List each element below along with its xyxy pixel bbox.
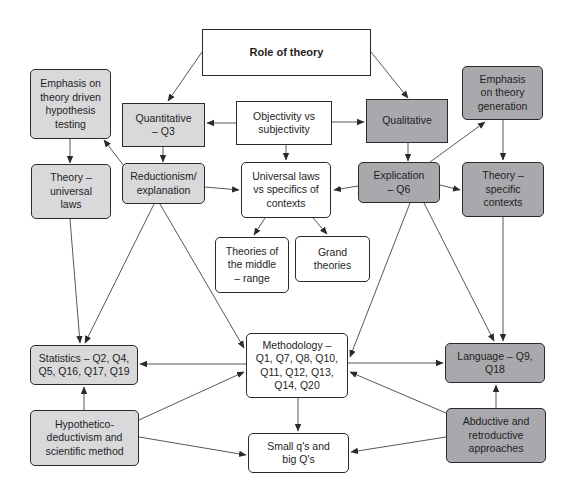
arrow-reductionism-to-statistics: [85, 204, 154, 343]
node-explication: Explication – Q6: [358, 162, 440, 203]
node-theory-specific-contexts: Theory – specific contexts: [462, 162, 544, 217]
arrow-explication-to-theory-specific: [440, 185, 460, 190]
node-theories-middle-range: Theories of the middle – range: [215, 237, 289, 293]
node-abductive-retroductive: Abductive and retroductive approaches: [446, 408, 546, 463]
node-methodology: Methodology – Q1, Q7, Q8, Q10, Q11, Q12,…: [246, 333, 348, 398]
arrow-abductive-to-small-big: [351, 437, 446, 452]
arrow-role-to-qualitative: [371, 52, 408, 98]
node-theory-universal-laws: Theory – universal laws: [31, 164, 111, 219]
node-objectivity-vs-subjectivity: Objectivity vs subjectivity: [236, 101, 332, 145]
node-reductionism-explanation: Reductionism/ explanation: [122, 163, 205, 204]
node-emphasis-theory-generation: Emphasis on theory generation: [462, 66, 543, 120]
arrow-abductive-to-methodology: [350, 372, 446, 413]
node-language: Language – Q9, Q18: [445, 343, 545, 383]
node-grand-theories: Grand theories: [295, 236, 370, 282]
node-quantitative: Quantitative – Q3: [122, 103, 205, 147]
arrow-explication-to-universal: [334, 186, 358, 190]
arrow-universal-to-grand: [313, 218, 327, 234]
arrow-hypothetico-to-small-big: [139, 437, 246, 455]
arrow-universal-to-middle-range: [254, 218, 265, 235]
arrow-theory-universal-to-statistics: [70, 219, 80, 343]
node-emphasis-hypothesis-testing: Emphasis on theory driven hypothesis tes…: [30, 69, 111, 139]
node-role-of-theory: Role of theory: [202, 29, 371, 76]
arrow-explication-to-language: [424, 203, 494, 341]
arrow-reductionism-to-emphasis: [104, 140, 124, 166]
node-hypothetico-deductivism: Hypothetico- deductivism and scientific …: [30, 410, 139, 466]
node-qualitative: Qualitative: [366, 99, 448, 143]
arrow-reductionism-to-universal: [205, 187, 239, 190]
node-small-qs-big-qs: Small q's and big Q's: [248, 433, 349, 473]
arrow-hypothetico-to-methodology: [139, 372, 244, 420]
node-statistics: Statistics – Q2, Q4, Q5, Q16, Q17, Q19: [30, 345, 138, 385]
node-universal-laws-vs-specifics: Universal laws vs specifics of contexts: [241, 162, 331, 218]
arrow-role-to-quantitative: [168, 52, 202, 101]
